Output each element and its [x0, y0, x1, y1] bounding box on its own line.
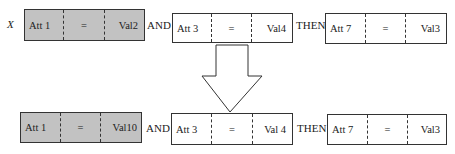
attribute-cell: Att 3 [173, 14, 212, 42]
value-cell: Val 4 [253, 114, 292, 144]
attribute-cell: Att 7 [328, 115, 368, 144]
value-cell: Val3 [408, 115, 446, 144]
operator-cell: = [61, 113, 101, 142]
consequent-box-modified: Att 7 = Val3 [327, 114, 447, 145]
consequent-box: Att 7 = Val3 [325, 13, 447, 44]
condition-box-2: Att 3 = Val4 [172, 13, 293, 43]
condition-box-1-modified: Att 1 = Val10 [20, 112, 142, 143]
attribute-cell: Att 7 [326, 14, 366, 43]
operator-cell: = [64, 10, 105, 40]
value-cell: Val4 [252, 14, 292, 42]
attribute-cell: Att 1 [25, 10, 64, 40]
attribute-cell: Att 3 [172, 114, 212, 144]
operator-cell: = [368, 115, 408, 144]
and-label: AND [146, 122, 170, 134]
and-label: AND [147, 19, 171, 31]
condition-box-2-modified: Att 3 = Val 4 [171, 113, 293, 145]
down-arrow-icon [200, 44, 280, 116]
value-cell: Val10 [101, 113, 141, 142]
condition-box-1: Att 1 = Val2 [24, 9, 145, 41]
then-label: THEN [297, 122, 326, 134]
then-label: THEN [296, 19, 325, 31]
attribute-cell: Att 1 [21, 113, 61, 142]
operator-cell: = [366, 14, 406, 43]
value-cell: Val2 [105, 10, 144, 40]
value-cell: Val3 [406, 14, 446, 43]
operator-cell: = [212, 14, 252, 42]
operator-cell: = [212, 114, 253, 144]
variable-label: X [7, 18, 14, 30]
